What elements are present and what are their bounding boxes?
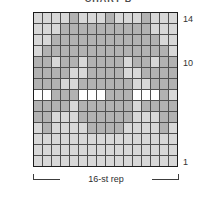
row-number-10: 10 bbox=[183, 58, 209, 68]
chart-cell bbox=[61, 156, 69, 166]
chart-cell bbox=[160, 112, 168, 122]
chart-cell bbox=[169, 90, 177, 100]
chart-cell bbox=[133, 156, 141, 166]
chart-cell bbox=[43, 123, 51, 133]
chart-cell bbox=[151, 35, 159, 45]
repeat-bracket-left-tick bbox=[33, 174, 34, 180]
chart-cell bbox=[88, 57, 96, 67]
chart-cell bbox=[61, 90, 69, 100]
chart-cell bbox=[151, 13, 159, 23]
chart-cell bbox=[142, 134, 150, 144]
chart-cell bbox=[142, 68, 150, 78]
chart-cell bbox=[169, 24, 177, 34]
chart-cell bbox=[43, 101, 51, 111]
chart-cell bbox=[133, 101, 141, 111]
chart-cell bbox=[79, 35, 87, 45]
chart-cell bbox=[70, 46, 78, 56]
chart-cell bbox=[151, 112, 159, 122]
row-number-1: 1 bbox=[183, 157, 209, 167]
chart-cell bbox=[79, 123, 87, 133]
chart-cell bbox=[133, 46, 141, 56]
chart-cell bbox=[79, 24, 87, 34]
chart-cell bbox=[160, 46, 168, 56]
chart-cell bbox=[70, 145, 78, 155]
chart-cell bbox=[106, 24, 114, 34]
chart-cell bbox=[79, 156, 87, 166]
chart-cell bbox=[160, 134, 168, 144]
chart-cell bbox=[151, 79, 159, 89]
chart-cell bbox=[124, 68, 132, 78]
chart-cell bbox=[34, 46, 42, 56]
chart-cell bbox=[61, 35, 69, 45]
chart-cell bbox=[52, 134, 60, 144]
chart-cell bbox=[97, 112, 105, 122]
chart-cell bbox=[34, 123, 42, 133]
chart-cell bbox=[61, 134, 69, 144]
chart-cell bbox=[61, 13, 69, 23]
chart-title: CHART B bbox=[0, 0, 217, 4]
chart-cell bbox=[151, 101, 159, 111]
chart-cell bbox=[142, 101, 150, 111]
chart-cell bbox=[88, 90, 96, 100]
chart-cell bbox=[106, 68, 114, 78]
chart-cell bbox=[142, 35, 150, 45]
chart-cell bbox=[115, 123, 123, 133]
chart-cell bbox=[34, 145, 42, 155]
chart-cell bbox=[97, 35, 105, 45]
chart-cell bbox=[133, 145, 141, 155]
chart-cell bbox=[115, 112, 123, 122]
chart-cell bbox=[43, 112, 51, 122]
chart-cell bbox=[169, 145, 177, 155]
chart-cell bbox=[79, 145, 87, 155]
chart-cell bbox=[142, 13, 150, 23]
chart-cell bbox=[34, 101, 42, 111]
chart-cell bbox=[133, 35, 141, 45]
chart-cell bbox=[52, 156, 60, 166]
chart-cell bbox=[133, 123, 141, 133]
chart-cell bbox=[97, 145, 105, 155]
chart-cell bbox=[79, 134, 87, 144]
chart-cell bbox=[79, 57, 87, 67]
chart-cell bbox=[151, 46, 159, 56]
chart-cell bbox=[106, 35, 114, 45]
chart-cell bbox=[106, 90, 114, 100]
chart-cell bbox=[52, 123, 60, 133]
chart-cell bbox=[133, 79, 141, 89]
chart-cell bbox=[142, 112, 150, 122]
chart-cell bbox=[52, 101, 60, 111]
chart-cell bbox=[34, 24, 42, 34]
chart-cell bbox=[97, 46, 105, 56]
chart-cell bbox=[43, 35, 51, 45]
chart-cell bbox=[106, 134, 114, 144]
row-number-14: 14 bbox=[183, 14, 209, 24]
chart-cell bbox=[43, 90, 51, 100]
chart-cell bbox=[160, 101, 168, 111]
chart-cell bbox=[151, 145, 159, 155]
chart-cell bbox=[115, 90, 123, 100]
chart-cell bbox=[106, 57, 114, 67]
chart-cell bbox=[106, 79, 114, 89]
chart-cell bbox=[43, 46, 51, 56]
chart-cell bbox=[70, 79, 78, 89]
chart-cell bbox=[142, 145, 150, 155]
chart-cell bbox=[115, 68, 123, 78]
chart-cell bbox=[160, 24, 168, 34]
chart-cell bbox=[115, 13, 123, 23]
chart-cell bbox=[88, 68, 96, 78]
chart-cell bbox=[124, 13, 132, 23]
chart-cell bbox=[124, 90, 132, 100]
chart-cell bbox=[115, 101, 123, 111]
chart-cell bbox=[52, 90, 60, 100]
chart-cell bbox=[115, 35, 123, 45]
chart-cell bbox=[124, 156, 132, 166]
chart-cell bbox=[151, 57, 159, 67]
chart-cell bbox=[97, 134, 105, 144]
chart-cell bbox=[79, 46, 87, 56]
chart-cell bbox=[88, 145, 96, 155]
chart-cell bbox=[61, 145, 69, 155]
chart-cell bbox=[34, 90, 42, 100]
chart-cell bbox=[169, 134, 177, 144]
chart-cell bbox=[115, 145, 123, 155]
chart-cell bbox=[97, 156, 105, 166]
chart-cell bbox=[124, 24, 132, 34]
